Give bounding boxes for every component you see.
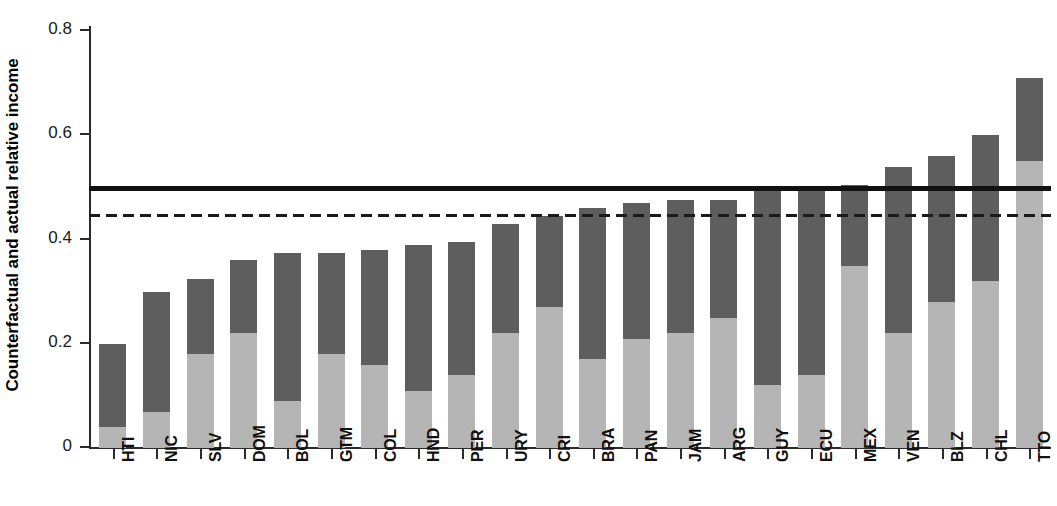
x-axis-tick [244,449,246,459]
x-axis-label-hnd: HND [425,342,443,462]
x-axis-tick [506,449,508,459]
bar-segment-counterfactual [536,216,563,307]
x-axis-tick [418,449,420,459]
y-axis-tick [80,238,89,240]
bar-segment-counterfactual [667,200,694,333]
bar-segment-counterfactual [230,260,257,333]
bar-segment-counterfactual [492,224,519,333]
x-axis-tick [200,449,202,459]
x-axis-label-jam: JAM [687,342,705,462]
x-axis-tick [724,449,726,459]
x-axis-label-chl: CHL [993,342,1011,462]
x-axis-label-pan: PAN [643,342,661,462]
bar-segment-counterfactual [928,156,955,302]
x-axis-label-blz: BLZ [949,342,967,462]
x-axis-label-slv: SLV [207,342,225,462]
bar-segment-counterfactual [623,203,650,339]
bar-segment-counterfactual [318,253,345,355]
y-axis-tick [80,446,89,448]
y-axis-title: Counterfactual and actual relative incom… [0,0,26,450]
x-axis-label-gtm: GTM [338,342,356,462]
x-axis-label-per: PER [469,342,487,462]
counterfactual-mean-line [89,186,1051,191]
x-axis-tick [898,449,900,459]
bar-segment-counterfactual [710,200,737,317]
x-axis-label-guy: GUY [774,342,792,462]
x-axis-tick [113,449,115,459]
x-axis-label-bra: BRA [600,342,618,462]
bar-segment-counterfactual [579,208,606,359]
x-axis-tick [593,449,595,459]
y-axis-tick-label: 0 [12,437,72,454]
x-axis-tick [636,449,638,459]
x-axis-label-dom: DOM [251,342,269,462]
actual-mean-line [89,214,1051,217]
x-axis-tick [1029,449,1031,459]
y-axis-tick [80,342,89,344]
x-axis-tick [331,449,333,459]
x-axis-label-tto: TTO [1036,342,1054,462]
bar-segment-counterfactual [885,167,912,334]
x-axis-label-cri: CRI [556,342,574,462]
x-axis-tick [942,449,944,459]
y-axis-tick-label: 0.4 [12,229,72,246]
x-axis-label-ven: VEN [905,342,923,462]
x-axis-tick [156,449,158,459]
x-axis-label-hti: HTI [120,342,138,462]
x-axis-label-mex: MEX [862,342,880,462]
y-axis-tick-label: 0.2 [12,333,72,350]
x-axis-label-ury: URY [513,342,531,462]
x-axis-tick [811,449,813,459]
y-axis-tick [80,133,89,135]
x-axis-label-arg: ARG [731,342,749,462]
bar-segment-counterfactual [1016,78,1043,161]
y-axis-tick [80,29,89,31]
bar-segment-counterfactual [972,135,999,281]
x-axis-tick [680,449,682,459]
bar-segment-counterfactual [841,185,868,266]
x-axis-tick [287,449,289,459]
x-axis-label-ecu: ECU [818,342,836,462]
x-axis-label-nic: NIC [163,342,181,462]
x-axis-tick [986,449,988,459]
y-axis-tick-label: 0.8 [12,20,72,37]
x-axis-tick [767,449,769,459]
x-axis-tick [375,449,377,459]
x-axis-tick [462,449,464,459]
chart-figure: Counterfactual and actual relative incom… [0,0,1057,506]
x-axis-tick [855,449,857,459]
x-axis-tick [549,449,551,459]
x-axis-label-col: COL [382,342,400,462]
y-axis-tick-label: 0.6 [12,124,72,141]
x-axis-label-bol: BOL [294,342,312,462]
